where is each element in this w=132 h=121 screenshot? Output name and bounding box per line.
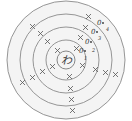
pair-dot-3 (96, 31, 98, 33)
pair-dot-1 (84, 50, 86, 52)
nucleus-label: わ (61, 54, 73, 67)
shell-label-2: 2 (91, 47, 95, 53)
shell-label-3: 3 (98, 35, 101, 41)
pair-marker-4: 0 (97, 19, 102, 27)
shell-label-1: 1 (84, 55, 87, 61)
pair-marker-3: 0 (91, 28, 96, 36)
shell-diagram: わ 0 1 0 2 0 3 0 4 (0, 0, 132, 121)
pair-dot-4 (102, 22, 104, 24)
pair-dot-2 (90, 41, 92, 43)
pair-marker-1: 0 (79, 47, 84, 55)
pair-marker-2: 0 (85, 38, 90, 46)
shell-label-4: 4 (105, 26, 109, 32)
